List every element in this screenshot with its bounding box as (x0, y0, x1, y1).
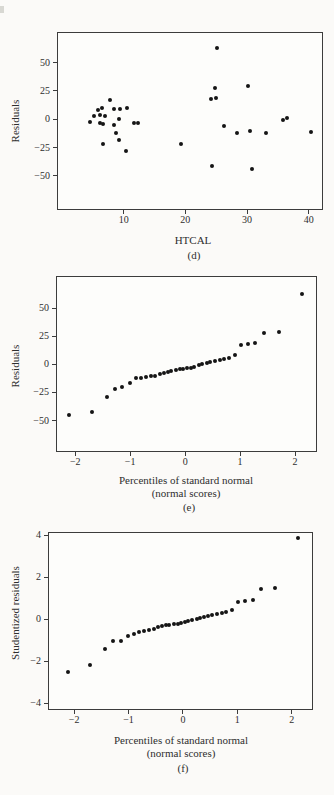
y-tick-label: −2 (30, 656, 41, 666)
data-point (152, 627, 156, 631)
x-axis-title: Percentiles of standard normal (114, 734, 248, 746)
y-tick-label: 0 (36, 614, 41, 624)
data-point (220, 611, 224, 615)
x-tick-label: −1 (123, 715, 134, 725)
data-point (103, 647, 107, 651)
y-axis-title: Studentized residuals (9, 566, 21, 660)
y-axis-tick (44, 703, 48, 704)
x-tick-label: 1 (235, 715, 240, 725)
data-point (243, 599, 247, 603)
data-point (167, 623, 171, 627)
y-axis-tick (44, 577, 48, 578)
y-axis-tick (44, 661, 48, 662)
x-tick-label: 0 (180, 715, 185, 725)
y-axis-tick (44, 535, 48, 536)
data-point (251, 598, 255, 602)
data-point (259, 587, 263, 591)
data-point (132, 632, 136, 636)
x-tick-label: 2 (289, 715, 294, 725)
y-tick-label: 4 (36, 530, 41, 540)
qq-plot-studentized-residuals: Studentized residuals Percentiles of sta… (0, 0, 334, 795)
x-tick-label: −2 (69, 715, 80, 725)
x-axis-subtitle: (normal scores) (147, 747, 216, 759)
y-tick-label: 2 (36, 572, 41, 582)
data-point (66, 670, 70, 674)
y-axis-tick (44, 619, 48, 620)
subfigure-caption: (f) (178, 762, 189, 774)
y-tick-label: −4 (30, 698, 41, 708)
data-point (147, 628, 151, 632)
figure-panel: Residuals HTCAL (d) 1020304050250−25−50 … (0, 0, 334, 795)
